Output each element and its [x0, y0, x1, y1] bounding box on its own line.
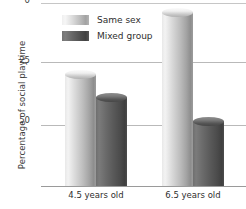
x-label-6-5-years-old: 6.5 years old — [138, 190, 246, 200]
legend: Same sex Mixed group — [62, 13, 153, 45]
gridline-50 — [41, 62, 246, 63]
legend-swatch-icon-mixed-group — [62, 31, 89, 41]
bar-mixed-group-6-5 — [193, 121, 224, 186]
bar-body — [162, 12, 193, 186]
x-label-4-5-years-old: 4.5 years old — [41, 190, 151, 200]
bar-cap — [65, 70, 96, 79]
bar-chart: Percentage of social playtime 50 25 0 — [0, 0, 246, 209]
y-axis-tick-labels: 50 25 0 — [0, 3, 36, 186]
legend-item-mixed-group: Mixed group — [62, 29, 153, 42]
bar-body — [96, 97, 127, 186]
legend-label-mixed-group: Mixed group — [97, 31, 153, 41]
x-axis-category-labels: 4.5 years old 6.5 years old — [41, 190, 246, 206]
legend-label-same-sex: Same sex — [97, 15, 141, 25]
y-tick-label-50: 50 — [0, 116, 30, 125]
y-tick-label-0: 0 — [0, 0, 30, 5]
bar-body — [193, 121, 224, 186]
gridline-top — [41, 3, 246, 4]
bar-mixed-group-4-5 — [96, 97, 127, 186]
bar-cap — [193, 117, 224, 126]
bar-cap — [96, 93, 127, 102]
x-axis-baseline — [41, 186, 246, 187]
bar-body — [65, 74, 96, 186]
legend-item-same-sex: Same sex — [62, 13, 153, 26]
bar-cap — [162, 8, 193, 17]
y-tick-label-25: 25 — [0, 56, 30, 65]
bar-same-sex-6-5 — [162, 12, 193, 186]
bar-same-sex-4-5 — [65, 74, 96, 186]
legend-swatch-icon-same-sex — [62, 15, 89, 25]
